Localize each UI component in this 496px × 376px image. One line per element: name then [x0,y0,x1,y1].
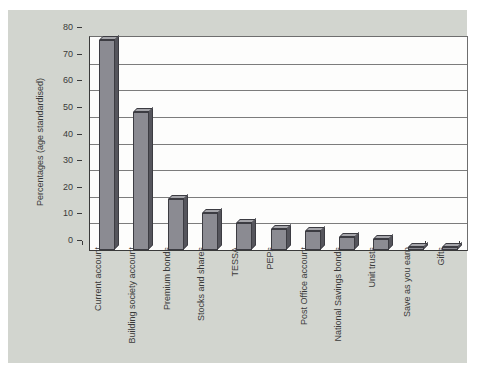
bar-0 [99,40,115,250]
gridline-60 [90,90,467,91]
y-tick-30 [77,160,82,161]
y-axis-title: Percentages (age standardised) [34,32,46,252]
y-tick-50 [77,107,82,108]
x-category-label-9: Save as you earn [402,247,413,376]
y-tick-60 [77,80,82,81]
y-tick-label-20: 20 [47,182,73,193]
bar-6 [305,231,321,250]
y-tick-label-60: 60 [47,75,73,86]
y-tick-label-0: 0 [47,235,73,246]
x-category-label-0: Current account [93,247,104,376]
x-category-label-5: PEPs [265,247,276,376]
y-tick-70 [77,54,82,55]
bar-9 [408,247,424,250]
x-category-label-2: Premium bonds [162,247,173,376]
x-category-label-8: Unit trusts [367,247,378,376]
y-tick-20 [77,187,82,188]
bar-7 [339,237,355,250]
plot-area [89,36,468,251]
y-tick-80 [77,27,82,28]
bar-2 [168,199,184,250]
bar-1 [133,112,149,250]
bar-3 [202,213,218,250]
x-category-label-4: TESSA [230,247,241,376]
chart-figure: Percentages (age standardised) 010203040… [0,0,496,376]
x-category-label-10: Gifts [436,247,447,376]
y-tick-label-50: 50 [47,102,73,113]
y-tick-label-10: 10 [47,208,73,219]
x-tick-0 [82,241,83,245]
y-tick-label-70: 70 [47,49,73,60]
x-category-label-6: Post Office account [299,247,310,376]
bar-5 [271,229,287,250]
y-tick-label-40: 40 [47,129,73,140]
bar-4 [236,223,252,250]
y-tick-10 [77,213,82,214]
y-tick-label-30: 30 [47,155,73,166]
x-category-label-7: National Savings bonds [333,247,344,376]
y-tick-0 [77,240,82,241]
x-category-label-3: Stocks and shares [196,247,207,376]
bar-10 [442,247,458,250]
x-category-label-1: Building society account [127,247,138,376]
gridline-70 [90,64,467,65]
y-tick-40 [77,134,82,135]
chart-panel: Percentages (age standardised) 010203040… [8,10,467,363]
y-tick-label-80: 80 [47,22,73,33]
bar-8 [373,239,389,250]
